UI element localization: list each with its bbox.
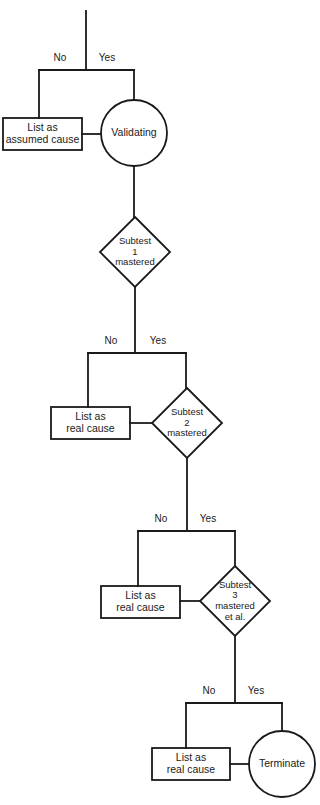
node-subtest-3 bbox=[200, 566, 270, 636]
flowchart-graphics bbox=[0, 0, 320, 805]
node-list-real-cause-3 bbox=[152, 748, 230, 780]
node-list-real-cause-2 bbox=[101, 586, 180, 618]
node-list-real-cause-1 bbox=[51, 407, 130, 439]
node-subtest-1 bbox=[100, 217, 170, 287]
node-list-assumed-cause bbox=[3, 118, 82, 150]
node-validating bbox=[101, 100, 167, 166]
node-terminate bbox=[249, 731, 315, 797]
flowchart-canvas: List as assumed cause Validating Subtest… bbox=[0, 0, 320, 805]
node-subtest-2 bbox=[152, 388, 222, 458]
